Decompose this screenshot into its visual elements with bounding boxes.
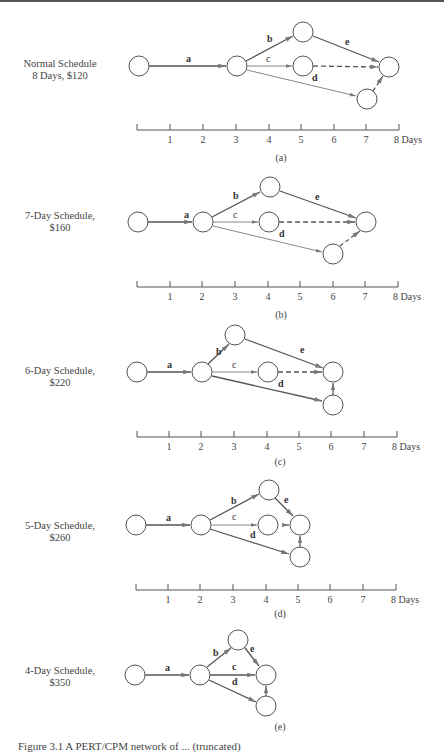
svg-text:c: c — [232, 359, 237, 370]
svg-text:7: 7 — [364, 134, 369, 145]
svg-text:a: a — [165, 662, 170, 673]
svg-text:b: b — [216, 346, 222, 357]
svg-text:b: b — [267, 33, 273, 44]
svg-text:(a): (a) — [275, 152, 286, 164]
svg-text:(d): (d) — [274, 608, 286, 620]
svg-text:5: 5 — [296, 594, 301, 605]
svg-text:8 Days: 8 Days — [391, 594, 419, 605]
panel-a-network: abcde 12345678 Days (a) — [129, 22, 422, 164]
pert-network-diagram: abcde 12345678 Days (a) abcde — [0, 0, 444, 752]
svg-text:6: 6 — [328, 594, 333, 605]
svg-text:1: 1 — [168, 291, 173, 302]
svg-text:4: 4 — [265, 441, 270, 452]
svg-text:a: a — [186, 53, 191, 64]
svg-text:2: 2 — [201, 134, 206, 145]
svg-text:3: 3 — [232, 441, 237, 452]
svg-text:5: 5 — [298, 291, 303, 302]
svg-text:a: a — [166, 512, 171, 523]
svg-text:(c): (c) — [274, 456, 285, 468]
svg-text:4: 4 — [264, 594, 269, 605]
svg-text:7: 7 — [362, 441, 367, 452]
svg-text:8 Days: 8 Days — [392, 441, 420, 452]
svg-text:b: b — [231, 495, 237, 506]
svg-text:4: 4 — [267, 134, 272, 145]
svg-text:a: a — [184, 209, 189, 220]
panel-e-network: abcde (e) — [125, 630, 286, 733]
svg-text:6: 6 — [329, 441, 334, 452]
panel-c-network: abcde 12345678 Days (c) — [127, 325, 420, 468]
svg-text:a: a — [167, 359, 172, 370]
svg-text:e: e — [315, 191, 320, 202]
svg-text:2: 2 — [199, 441, 204, 452]
svg-text:d: d — [250, 529, 256, 540]
svg-text:8 Days: 8 Days — [394, 134, 422, 145]
svg-text:2: 2 — [198, 594, 203, 605]
svg-text:4: 4 — [266, 291, 271, 302]
svg-text:7: 7 — [361, 594, 366, 605]
svg-text:5: 5 — [297, 441, 302, 452]
svg-text:2: 2 — [200, 291, 205, 302]
svg-text:8 Days: 8 Days — [393, 291, 421, 302]
svg-text:e: e — [300, 344, 305, 355]
svg-text:1: 1 — [166, 594, 171, 605]
svg-text:1: 1 — [168, 134, 173, 145]
svg-text:1: 1 — [167, 441, 172, 452]
svg-text:7: 7 — [363, 291, 368, 302]
svg-text:(b): (b) — [275, 309, 287, 321]
svg-text:c: c — [232, 511, 237, 522]
svg-text:c: c — [232, 661, 237, 672]
svg-text:3: 3 — [231, 594, 236, 605]
svg-text:5: 5 — [299, 134, 304, 145]
svg-text:b: b — [213, 647, 219, 658]
panel-d-network: abcde 12345678 Days (d) — [126, 480, 419, 620]
svg-text:d: d — [279, 228, 285, 239]
svg-text:e: e — [250, 643, 255, 654]
svg-text:6: 6 — [332, 134, 337, 145]
svg-text:(e): (e) — [274, 721, 285, 733]
svg-text:d: d — [312, 72, 318, 83]
svg-text:e: e — [345, 36, 350, 47]
svg-text:c: c — [266, 53, 271, 64]
svg-text:e: e — [284, 494, 289, 505]
svg-text:d: d — [232, 676, 238, 687]
svg-text:3: 3 — [233, 291, 238, 302]
panel-b-network: abcde 12345678 Days (b) — [128, 177, 421, 321]
svg-text:6: 6 — [331, 291, 336, 302]
svg-text:3: 3 — [234, 134, 239, 145]
svg-text:d: d — [278, 378, 284, 389]
svg-text:b: b — [233, 190, 239, 201]
svg-text:c: c — [233, 209, 238, 220]
figure-caption: Figure 3.1 A PERT/CPM network of ... (tr… — [18, 740, 241, 752]
